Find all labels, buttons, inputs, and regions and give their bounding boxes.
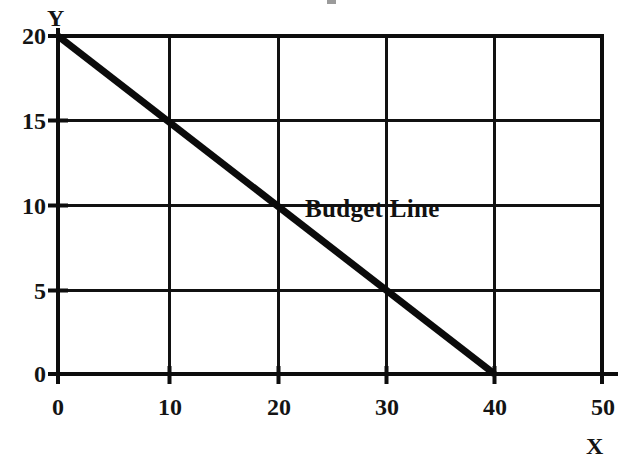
ytick-label-20: 20 — [2, 24, 46, 48]
xtick-label-20: 20 — [267, 395, 291, 419]
chart-plot-area — [0, 0, 620, 471]
ytick-label-5: 5 — [2, 279, 46, 303]
xtick-label-40: 40 — [483, 395, 507, 419]
ytick-label-10: 10 — [2, 194, 46, 218]
ytick-label-0: 0 — [2, 362, 46, 386]
budget-line-chart-figure: 20 15 10 5 0 0 10 20 30 40 50 Y X Budget… — [0, 0, 620, 471]
xtick-label-10: 10 — [158, 395, 182, 419]
y-axis-label: Y — [47, 6, 64, 30]
xtick-label-30: 30 — [375, 395, 399, 419]
ytick-label-15: 15 — [2, 109, 46, 133]
xtick-label-0: 0 — [52, 395, 64, 419]
budget-line-annotation: Budget Line — [305, 196, 440, 221]
xtick-label-50: 50 — [591, 395, 615, 419]
x-axis-label: X — [586, 434, 603, 458]
